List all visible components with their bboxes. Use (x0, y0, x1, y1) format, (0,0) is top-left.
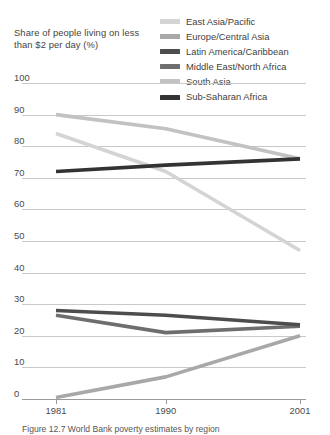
series-lines (0, 0, 330, 435)
series-line-1 (56, 336, 300, 398)
series-line-4 (56, 115, 300, 159)
plot-area: 1009080706050403020100 198119902001 (0, 0, 330, 435)
series-line-5 (56, 159, 300, 172)
figure-caption: Figure 12.7 World Bank poverty estimates… (22, 424, 322, 435)
poverty-share-line-chart: Share of people living on less than $2 p… (0, 0, 330, 435)
